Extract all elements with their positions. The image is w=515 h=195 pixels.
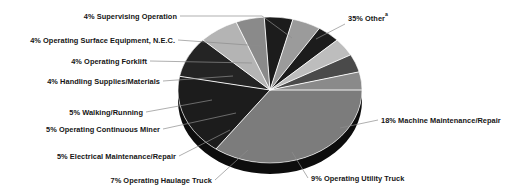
label-other-text: 35% Other [348,14,385,23]
label-machine-maintenance: 18% Machine Maintenance/Repair [381,116,501,125]
label-operating-utility-truck: 9% Operating Utility Truck [311,174,405,183]
label-supervising-operation: 4% Supervising Operation [84,12,178,21]
label-operating-surface-equipment: 4% Operating Surface Equipment, N.E.C. [30,36,175,45]
pie-chart-svg: 4% Supervising Operation 4% Operating Su… [0,0,515,195]
label-other: 35% Othera [348,11,388,23]
label-electrical-maintenance: 5% Electrical Maintenance/Repair [57,152,176,161]
label-other-superscript: a [385,11,388,17]
label-operating-continuous-miner: 5% Operating Continuous Miner [46,125,160,134]
label-handling-supplies: 4% Handling Supplies/Materials [47,77,160,86]
label-walking-running: 5% Walking/Running [69,108,143,117]
label-operating-haulage-truck: 7% Operating Haulage Truck [110,176,212,185]
pie-chart-figure: 4% Supervising Operation 4% Operating Su… [0,0,515,195]
label-operating-forklift: 4% Operating Forklift [71,57,147,66]
